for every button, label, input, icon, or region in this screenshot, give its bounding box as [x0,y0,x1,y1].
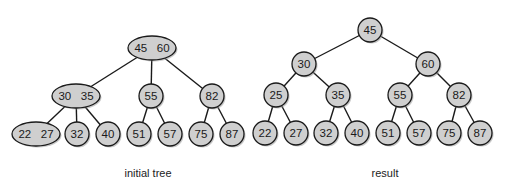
tree-node-result-r_87: 87 [468,121,494,147]
node-label: 27 [290,127,303,139]
tree-node-result-r_45: 45 [358,18,384,44]
tree-node-result-r_25: 25 [264,83,290,109]
node-label: 75 [443,127,456,139]
tree-node-initial-i_87: 87 [220,122,246,148]
tree-node-result-r_51: 51 [376,121,402,147]
node-label: 55 [145,90,158,102]
node-label: 45 [364,24,377,36]
node-label: 87 [226,128,239,140]
tree-node-initial-i_51: 51 [127,122,153,148]
tree-node-initial-i_3035: 30 35 [52,84,102,110]
node-label: 40 [351,127,364,139]
tree-node-initial-i_32: 32 [65,122,91,148]
node-label: 51 [382,127,395,139]
tree-node-result-r_22: 22 [253,121,279,147]
result-tree-caption: result [372,167,399,179]
edges-layer [36,30,480,134]
node-label: 22 27 [18,128,53,140]
node-label: 55 [394,89,407,101]
tree-node-initial-i_40: 40 [96,122,122,148]
node-label: 32 [71,128,84,140]
node-label: 30 35 [58,90,93,102]
node-label: 87 [474,127,487,139]
node-label: 32 [320,127,333,139]
captions-layer: initial tree result [124,167,398,179]
node-label: 82 [206,90,219,102]
node-label: 22 [259,127,272,139]
tree-diagram: 45 6030 35558222 27324051577587453060253… [0,0,505,186]
node-label: 57 [413,127,426,139]
node-label: 51 [133,128,146,140]
tree-node-result-r_55: 55 [388,83,414,109]
node-label: 35 [332,89,345,101]
tree-node-result-r_40: 40 [345,121,371,147]
tree-node-result-r_82: 82 [447,83,473,109]
node-label: 25 [270,89,283,101]
tree-node-initial-i_55: 55 [139,84,165,110]
node-label: 45 60 [134,42,169,54]
tree-node-result-r_57: 57 [407,121,433,147]
tree-node-result-r_27: 27 [284,121,310,147]
tree-node-initial-i_75: 75 [189,122,215,148]
tree-node-result-r_35: 35 [326,83,352,109]
tree-node-initial-i_82: 82 [200,84,226,110]
node-label: 75 [195,128,208,140]
node-label: 40 [102,128,115,140]
tree-node-result-r_75: 75 [437,121,463,147]
node-label: 30 [298,58,311,70]
node-label: 57 [164,128,177,140]
node-label: 60 [422,58,435,70]
tree-node-initial-i_57: 57 [158,122,184,148]
tree-node-result-r_32: 32 [314,121,340,147]
nodes-layer: 45 6030 35558222 27324051577587453060253… [12,18,494,148]
initial-tree-caption: initial tree [124,167,171,179]
tree-node-initial-i_2227: 22 27 [12,122,62,148]
node-label: 82 [453,89,466,101]
